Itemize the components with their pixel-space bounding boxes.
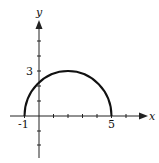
y-axis-arrow-icon: [36, 20, 43, 29]
y-tick-label-3: 3: [26, 65, 33, 78]
x-axis-arrow-icon: [139, 113, 148, 120]
x-tick-label-5: 5: [108, 118, 115, 131]
y-axis: [36, 20, 43, 158]
x-axis: [10, 113, 148, 120]
x-axis-label: x: [149, 110, 156, 123]
x-tick-label-neg1: -1: [18, 118, 29, 131]
semicircle-plot: y x 3 -1 5: [0, 0, 159, 163]
semicircle-curve: [25, 71, 112, 116]
y-axis-label: y: [35, 6, 43, 19]
